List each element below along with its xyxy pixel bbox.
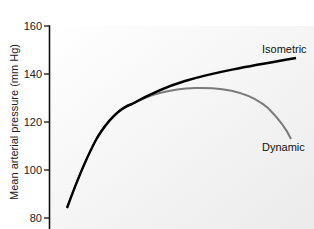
y-tick-label-140: 140 bbox=[24, 68, 42, 80]
plot-area bbox=[50, 26, 314, 229]
line-chart: 160 140 120 100 80 Mean arterial pressur… bbox=[0, 0, 314, 229]
y-tick-label-100: 100 bbox=[24, 164, 42, 176]
isometric-label: Isometric bbox=[262, 43, 307, 55]
dynamic-label: Dynamic bbox=[262, 141, 305, 153]
y-tick-label-120: 120 bbox=[24, 116, 42, 128]
y-axis-title: Mean arterial pressure (mm Hg) bbox=[8, 44, 20, 200]
y-tick-label-80: 80 bbox=[30, 212, 42, 224]
y-axis: 160 140 120 100 80 Mean arterial pressur… bbox=[8, 20, 50, 229]
y-tick-label-160: 160 bbox=[24, 20, 42, 32]
